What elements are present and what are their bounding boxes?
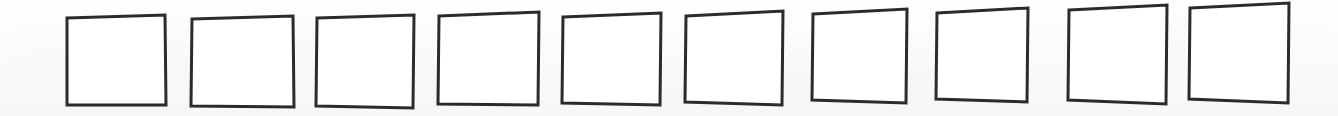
box-outline [562,13,661,105]
box-5 [556,7,667,111]
box-4 [432,6,545,111]
box-7 [806,3,913,109]
box-outline [316,15,414,108]
box-outline [812,9,907,103]
box-2 [185,10,300,113]
box-10 [1183,0,1295,109]
box-outline [438,12,539,105]
box-outline [1189,3,1289,103]
box-9 [1062,0,1173,110]
box-outline [191,16,294,107]
box-outline [1068,5,1167,104]
box-1 [61,9,172,111]
scanned-sheet [0,0,1338,116]
box-3 [310,9,420,114]
box-outline [685,11,783,105]
box-6 [679,5,789,111]
square-row [0,0,1338,116]
box-8 [930,2,1034,108]
box-outline [936,8,1028,102]
box-outline [67,15,166,105]
